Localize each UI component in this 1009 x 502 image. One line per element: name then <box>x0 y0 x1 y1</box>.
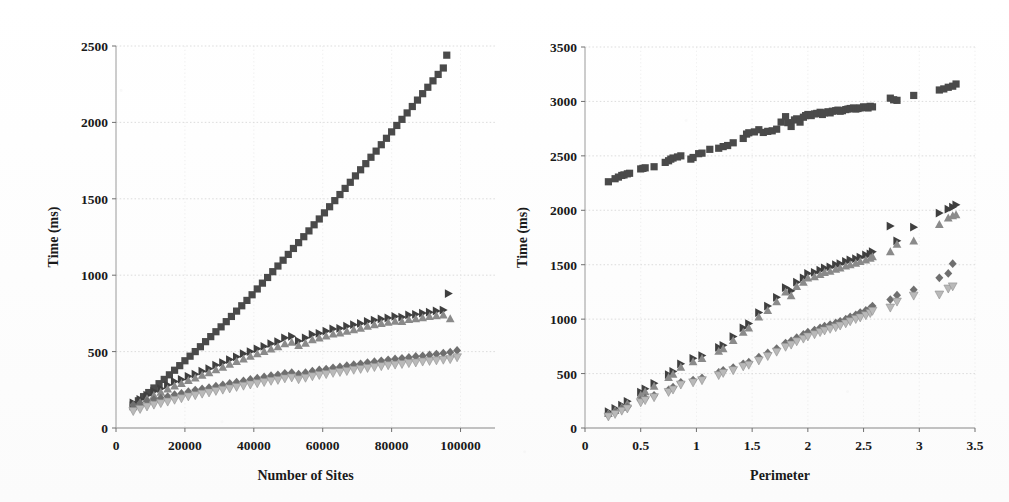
data-point-marker <box>404 109 411 116</box>
data-point-marker <box>788 123 795 130</box>
data-point-marker <box>267 377 276 385</box>
x-tick-label: 40000 <box>237 438 271 453</box>
x-tick-label: 2 <box>804 438 811 453</box>
data-point-marker <box>886 304 895 312</box>
data-point-marker <box>287 374 296 382</box>
data-point-marker <box>909 292 918 300</box>
x-tick-label: 3 <box>916 438 923 453</box>
data-point-marker <box>198 390 207 398</box>
data-series-series-squares <box>605 80 960 185</box>
data-point-marker <box>419 90 426 97</box>
y-tick-label: 2500 <box>81 39 108 54</box>
data-point-marker <box>398 361 407 369</box>
chart-svg-left: 0500100015002000250002000040000600008000… <box>0 0 505 502</box>
data-point-marker <box>605 178 612 185</box>
y-tick-label: 1000 <box>81 268 108 283</box>
data-point-marker <box>411 359 420 367</box>
data-point-marker <box>650 394 659 402</box>
data-point-marker <box>446 348 454 357</box>
data-point-marker <box>370 364 379 372</box>
data-point-marker <box>642 164 649 171</box>
data-point-marker <box>706 146 713 153</box>
y-tick-label: 1500 <box>81 192 108 207</box>
data-point-marker <box>388 128 395 135</box>
data-point-marker <box>163 398 172 406</box>
data-point-marker <box>439 356 448 364</box>
data-point-marker <box>952 200 960 209</box>
y-tick-label: 3000 <box>550 94 577 109</box>
data-point-marker <box>232 383 241 391</box>
data-point-marker <box>363 364 372 372</box>
y-axis-ticks: 05001000150020002500 <box>81 39 116 436</box>
x-tick-label: 2.5 <box>855 438 872 453</box>
data-point-marker <box>308 373 317 381</box>
x-tick-label: 1 <box>693 438 700 453</box>
x-tick-label: 0 <box>113 438 120 453</box>
x-tick-label: 0.5 <box>632 438 649 453</box>
data-point-marker <box>170 396 179 404</box>
data-point-marker <box>315 372 324 380</box>
data-point-marker <box>429 77 436 84</box>
x-tick-label: 3.5 <box>967 438 984 453</box>
data-point-marker <box>336 368 345 376</box>
x-axis-ticks: 020000400006000080000100000 <box>113 428 481 453</box>
data-point-marker <box>935 220 944 228</box>
data-point-marker <box>432 357 441 365</box>
data-point-marker <box>414 96 421 103</box>
data-point-marker <box>650 163 657 170</box>
data-point-marker <box>239 382 248 390</box>
x-axis-title: Perimeter <box>750 468 810 483</box>
data-series-series-down-triangles <box>604 283 957 421</box>
data-point-marker <box>893 97 900 104</box>
figure-scatter-pair: 0500100015002000250002000040000600008000… <box>0 0 1009 502</box>
data-point-marker <box>329 369 338 377</box>
data-point-marker <box>177 395 186 403</box>
y-axis-ticks: 0500100015002000250030003500 <box>550 40 585 436</box>
data-point-marker <box>936 209 944 218</box>
data-point-marker <box>301 374 310 382</box>
data-point-marker <box>425 357 434 365</box>
x-tick-label: 20000 <box>168 438 202 453</box>
y-tick-label: 500 <box>557 367 578 382</box>
data-point-marker <box>440 64 447 71</box>
y-tick-label: 2000 <box>550 203 577 218</box>
data-point-marker <box>274 376 283 384</box>
x-tick-label: 1.5 <box>744 438 761 453</box>
data-point-marker <box>453 346 461 355</box>
data-point-marker <box>356 365 365 373</box>
data-point-marker <box>677 152 684 159</box>
x-tick-label: 100000 <box>440 438 481 453</box>
data-point-marker <box>191 392 200 400</box>
y-axis-title: Time (ms) <box>515 207 531 268</box>
data-point-marker <box>424 84 431 91</box>
data-series-series-right-triangles <box>130 289 453 407</box>
data-point-marker <box>156 400 165 408</box>
data-point-marker <box>409 103 416 110</box>
data-point-marker <box>212 387 221 395</box>
data-point-marker <box>418 358 427 366</box>
data-point-marker <box>342 368 351 376</box>
data-point-marker <box>730 139 737 146</box>
data-point-marker <box>626 170 633 177</box>
data-point-marker <box>935 273 943 282</box>
data-point-marker <box>909 236 918 244</box>
data-point-marker <box>377 363 386 371</box>
data-point-marker <box>404 360 413 368</box>
data-point-marker <box>373 148 380 155</box>
data-point-marker <box>446 356 455 364</box>
data-point-marker <box>676 381 685 389</box>
data-point-marker <box>944 269 952 278</box>
chart-panel-right: 050010001500200025003000350000.511.522.5… <box>505 0 1009 502</box>
data-point-marker <box>280 375 289 383</box>
y-axis-title: Time (ms) <box>46 206 62 267</box>
data-point-marker <box>383 135 390 142</box>
data-point-marker <box>445 289 453 298</box>
y-tick-label: 0 <box>570 421 577 436</box>
data-series-series-up-triangles <box>604 210 960 417</box>
data-point-marker <box>253 380 262 388</box>
data-point-marker <box>763 353 772 361</box>
data-point-marker <box>910 92 917 99</box>
y-tick-label: 1500 <box>550 258 577 273</box>
data-point-marker <box>260 379 269 387</box>
data-point-marker <box>218 386 227 394</box>
